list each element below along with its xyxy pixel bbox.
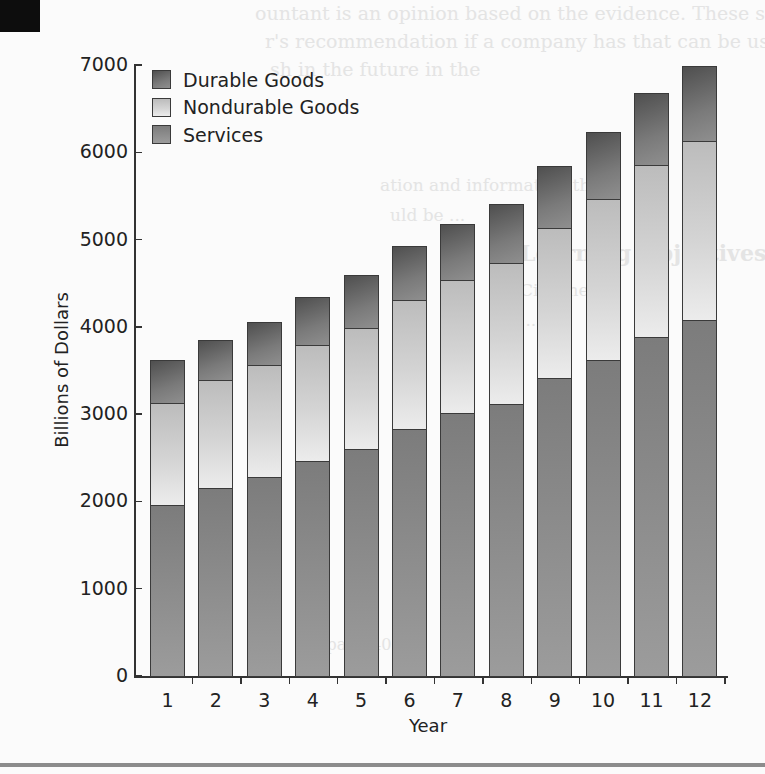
bar-segment-nondurable [296,345,329,461]
bar-year-6 [392,246,427,677]
bar-segment-services [635,337,668,676]
legend-label: Services [183,124,263,146]
bar-segment-durable [248,323,281,365]
legend-item-services: Services [152,121,359,149]
legend-swatch-icon [152,125,171,144]
y-tick-label: 7000 [80,55,128,74]
bar-segment-durable [393,247,426,300]
x-tick [434,677,436,684]
legend-swatch-icon [152,70,171,89]
legend-item-durable: Durable Goods [152,66,359,94]
bar-segment-nondurable [199,380,232,487]
y-tick [134,501,142,503]
bar-segment-services [248,477,281,676]
bar-segment-services [538,378,571,676]
x-tick [337,677,339,684]
bar-segment-nondurable [635,165,668,338]
bar-segment-durable [345,276,378,328]
bar-segment-services [441,413,474,676]
x-tick [385,677,387,684]
x-axis-title: Year [409,715,447,736]
bar-segment-services [683,320,716,676]
bar-year-2 [198,340,233,677]
x-tick-label: 8 [486,689,526,711]
bar-year-10 [586,132,621,677]
bar-year-3 [247,322,282,677]
bar-segment-nondurable [248,365,281,477]
x-tick-label: 9 [535,689,575,711]
bar-segment-nondurable [393,300,426,429]
bar-year-9 [537,166,572,677]
bar-segment-durable [538,167,571,228]
y-tick-label: 3000 [80,404,128,423]
y-tick-label: 0 [116,666,128,685]
legend-swatch-icon [152,98,171,117]
bar-segment-durable [296,298,329,345]
x-tick-label: 6 [390,689,430,711]
legend-label: Durable Goods [183,69,324,91]
y-tick [134,64,142,66]
bar-segment-nondurable [587,199,620,360]
bar-segment-durable [441,225,474,280]
bar-segment-nondurable [345,328,378,449]
x-tick-label: 11 [632,689,672,711]
y-tick-label: 6000 [80,142,128,161]
bar-year-4 [295,297,330,677]
bar-segment-services [490,404,523,676]
bar-segment-services [151,505,184,676]
x-tick [289,677,291,684]
x-tick-label: 10 [583,689,623,711]
bar-year-1 [150,360,185,677]
y-tick [134,413,142,415]
bar-year-11 [634,93,669,677]
legend-item-nondurable: Nondurable Goods [152,94,359,122]
x-tick [676,677,678,684]
bar-segment-services [296,461,329,676]
bar-segment-durable [587,133,620,199]
page-bottom-rule [0,763,765,767]
x-tick [531,677,533,684]
y-tick-label: 4000 [80,316,128,335]
x-tick-label: 12 [680,689,720,711]
bar-segment-durable [199,341,232,380]
bar-segment-nondurable [490,263,523,404]
bar-segment-nondurable [538,228,571,378]
x-tick-label: 7 [438,689,478,711]
y-tick [134,239,142,241]
x-tick [240,677,242,684]
x-tick-label: 4 [293,689,333,711]
bar-segment-durable [490,205,523,263]
bar-year-5 [344,275,379,677]
legend-label: Nondurable Goods [183,96,359,118]
bar-year-12 [682,66,717,677]
bar-year-7 [440,224,475,677]
x-tick-label: 5 [341,689,381,711]
y-axis [134,65,136,677]
bar-segment-durable [151,361,184,403]
bar-segment-services [587,360,620,676]
bar-segment-durable [683,67,716,141]
y-tick-label: 5000 [80,229,128,248]
bar-year-8 [489,204,524,677]
y-tick [134,588,142,590]
bar-segment-services [393,429,426,676]
x-tick-label: 2 [196,689,236,711]
x-tick [192,677,194,684]
bar-segment-services [345,449,378,676]
bar-segment-nondurable [683,141,716,320]
y-tick [134,675,142,677]
bar-segment-services [199,488,232,676]
stacked-bar-chart: 01000200030004000500060007000 1234567891… [0,0,765,774]
x-tick [627,677,629,684]
x-tick [724,677,726,684]
legend: Durable Goods Nondurable Goods Services [152,66,359,149]
bar-segment-nondurable [441,280,474,414]
x-tick [482,677,484,684]
y-tick-label: 2000 [80,491,128,510]
y-tick [134,326,142,328]
x-tick-label: 1 [148,689,188,711]
x-tick-label: 3 [244,689,284,711]
y-tick [134,152,142,154]
y-tick-label: 1000 [80,578,128,597]
bar-segment-nondurable [151,403,184,506]
